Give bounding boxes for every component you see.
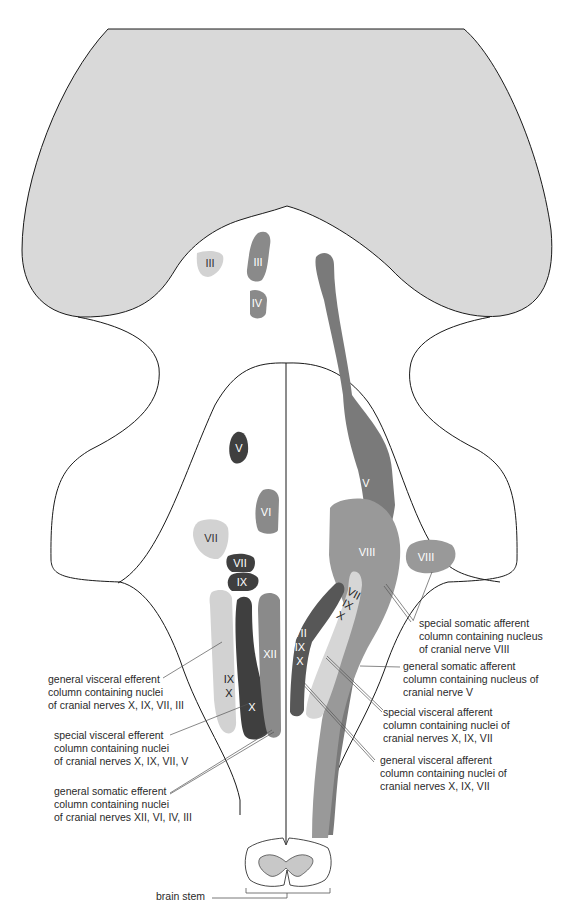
label-gsa-line2: column containing nucleus of xyxy=(403,673,538,686)
label-gsa-line1: general somatic afferent xyxy=(403,660,538,673)
nucleus-v-sve-label: V xyxy=(235,442,243,454)
nucleus-iii-gve-label: III xyxy=(205,257,214,269)
nucleus-ssa-viii-lateral-label: VIII xyxy=(418,551,435,563)
column-gve-x-label: X xyxy=(225,687,233,699)
label-gsa: general somatic afferent column containi… xyxy=(403,660,538,698)
nucleus-ix-sve-label: IX xyxy=(237,576,248,588)
label-gse-line2: column containing nuclei xyxy=(54,798,192,811)
label-sve-line1: special visceral efferent xyxy=(54,729,188,742)
label-sve-line2: column containing nuclei xyxy=(54,742,188,755)
nucleus-iv-gse-label: IV xyxy=(252,297,263,309)
label-gse-line1: general somatic efferent xyxy=(54,785,192,798)
nucleus-vii-gve-label: VII xyxy=(204,532,217,544)
brain-stem-bracket xyxy=(212,888,330,898)
label-gva-line2: column containing nuclei of xyxy=(380,767,507,780)
nucleus-iii-gse-label: III xyxy=(253,256,262,268)
label-sva-line1: special visceral afferent xyxy=(383,706,510,719)
column-gva-x-label: X xyxy=(296,655,304,667)
spinal-cord-section xyxy=(245,838,331,886)
column-sve-x-label: X xyxy=(248,701,256,713)
label-ssa-line2: column containing nucleus xyxy=(419,630,543,643)
label-gve-line1: general visceral efferent xyxy=(48,673,184,686)
label-ssa-line3: of cranial nerve VIII xyxy=(419,643,543,656)
label-sve: special visceral efferent column contain… xyxy=(54,729,188,767)
label-gve: general visceral efferent column contain… xyxy=(48,673,184,711)
label-gva-line1: general visceral afferent xyxy=(380,754,507,767)
label-brain-stem: brain stem xyxy=(156,890,205,903)
label-gve-line3: of cranial nerves X, IX, VII, III xyxy=(48,699,184,712)
label-gva: general visceral afferent column contain… xyxy=(380,754,507,792)
column-gse-xii-label: XII xyxy=(263,648,276,660)
midbrain-region xyxy=(22,29,552,317)
label-ssa: special somatic afferent column containi… xyxy=(419,617,543,655)
label-gsa-line3: cranial nerve V xyxy=(403,686,538,699)
column-gva-vii-label: VII xyxy=(293,627,306,639)
label-sva: special visceral afferent column contain… xyxy=(383,706,510,744)
nucleus-vi-gse-label: VI xyxy=(261,506,271,518)
column-gva-ix-label: IX xyxy=(295,641,306,653)
label-gve-line2: column containing nuclei xyxy=(48,686,184,699)
label-gse-line3: of cranial nerves XII, VI, IV, III xyxy=(54,811,192,824)
label-gse: general somatic efferent column containi… xyxy=(54,785,192,823)
column-gve-ix-label: IX xyxy=(224,673,235,685)
column-gsa-v-label: V xyxy=(362,477,370,489)
column-gve-ix-x xyxy=(210,590,237,733)
label-sve-line3: of cranial nerves X, IX, VII, V xyxy=(54,755,188,768)
column-ssa-viii-medial-label: VIII xyxy=(359,546,376,558)
label-gva-line3: cranial nerves X, IX, VII xyxy=(380,780,507,793)
label-ssa-line1: special somatic afferent xyxy=(419,617,543,630)
nucleus-vii-sve-label: VII xyxy=(233,557,246,569)
label-sva-line3: cranial nerves X, IX, VII xyxy=(383,732,510,745)
label-sva-line2: column containing nuclei of xyxy=(383,719,510,732)
